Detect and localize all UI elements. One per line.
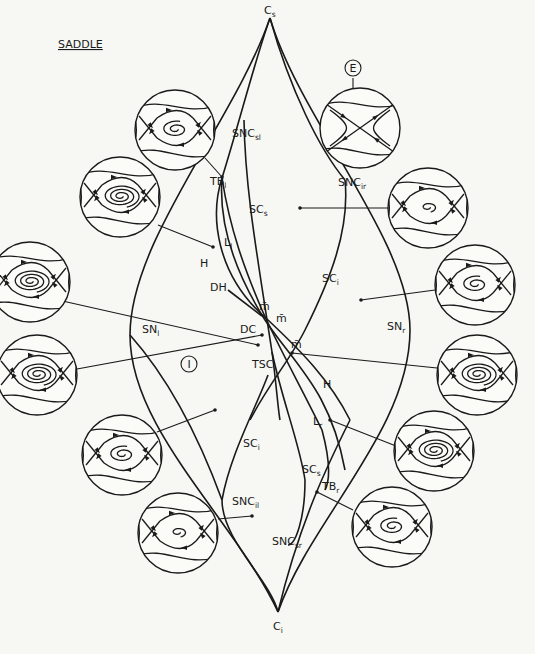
diagram-title: SADDLE xyxy=(58,38,103,51)
cusp-top-label: Cs xyxy=(264,4,276,19)
curve-label-SNl: SNl xyxy=(142,323,159,338)
curve-DH xyxy=(228,290,262,316)
leader-p2 xyxy=(158,225,213,247)
curve-label-TSC: TSC xyxy=(251,358,274,371)
curve-label-mbar2: m̄ xyxy=(276,312,287,325)
curve-label-H_top: H xyxy=(200,257,208,270)
phase-portrait-p12 xyxy=(352,487,432,567)
curve-label-SCs_top: SCs xyxy=(249,203,268,218)
curve-label-SNr: SNr xyxy=(387,320,406,335)
region-marker-I: I xyxy=(181,356,197,372)
leader-p9 xyxy=(361,290,435,300)
region-marker-E: E xyxy=(345,60,361,76)
phase-portrait-p7 xyxy=(320,88,400,168)
curve-label-mbar3: m̄ xyxy=(291,338,302,351)
phase-portrait-p9 xyxy=(435,245,515,325)
leader-p4 xyxy=(77,335,262,369)
curve-lower-right-diagonal xyxy=(278,420,350,612)
curve-label-DH: DH xyxy=(210,281,227,294)
svg-text:I: I xyxy=(187,358,190,371)
curve-label-SNCil: SNCil xyxy=(232,495,259,510)
phase-portrait-p8 xyxy=(388,168,468,248)
curve-label-TBl: TBl xyxy=(209,175,226,190)
curve-label-Lr: Lr xyxy=(313,415,323,430)
curve-label-SNCsl: SNCsl xyxy=(232,127,261,142)
phase-portrait-p1 xyxy=(135,90,215,170)
svg-text:E: E xyxy=(350,62,357,75)
curve-label-H_bottom: H xyxy=(323,378,331,391)
phase-portrait-p10 xyxy=(437,335,517,415)
cusp-bottom-label: Ci xyxy=(273,620,283,635)
curve-label-SNCir: SNCir xyxy=(338,176,367,191)
phase-portrait-p5 xyxy=(82,415,162,495)
leader-p3 xyxy=(58,300,258,345)
curve-label-SCi_right: SCi xyxy=(322,272,339,287)
curve-SC-s-bottom xyxy=(272,352,305,545)
phase-portrait-p6 xyxy=(138,493,218,573)
curve-SC-s-top xyxy=(244,120,280,420)
leader-p6 xyxy=(218,516,252,519)
phase-portrait-p11 xyxy=(394,411,474,491)
curve-label-Ll: Ll xyxy=(224,236,232,251)
curve-label-DC: DC xyxy=(240,323,256,336)
phase-portrait-p2 xyxy=(80,157,160,237)
curve-main-diagonal xyxy=(217,18,350,420)
curve-label-SNCsr: SNCsr xyxy=(272,535,303,550)
leader-p5 xyxy=(157,410,215,432)
curve-label-TBr: TBr xyxy=(321,480,340,495)
curve-label-mbar1: m̄ xyxy=(259,300,270,313)
phase-portrait-p4 xyxy=(0,335,77,415)
curve-label-SCi_bottom: SCi xyxy=(243,437,260,452)
curve-label-SCs_bottom: SCs xyxy=(302,463,321,478)
phase-portrait-p3 xyxy=(0,242,70,322)
bifurcation-diagram: SADDLE Cs Ci SNlSNrSNCslSNCirSNCilSNCsrT… xyxy=(0,0,535,654)
curve-SC-i-bottom xyxy=(222,375,278,612)
